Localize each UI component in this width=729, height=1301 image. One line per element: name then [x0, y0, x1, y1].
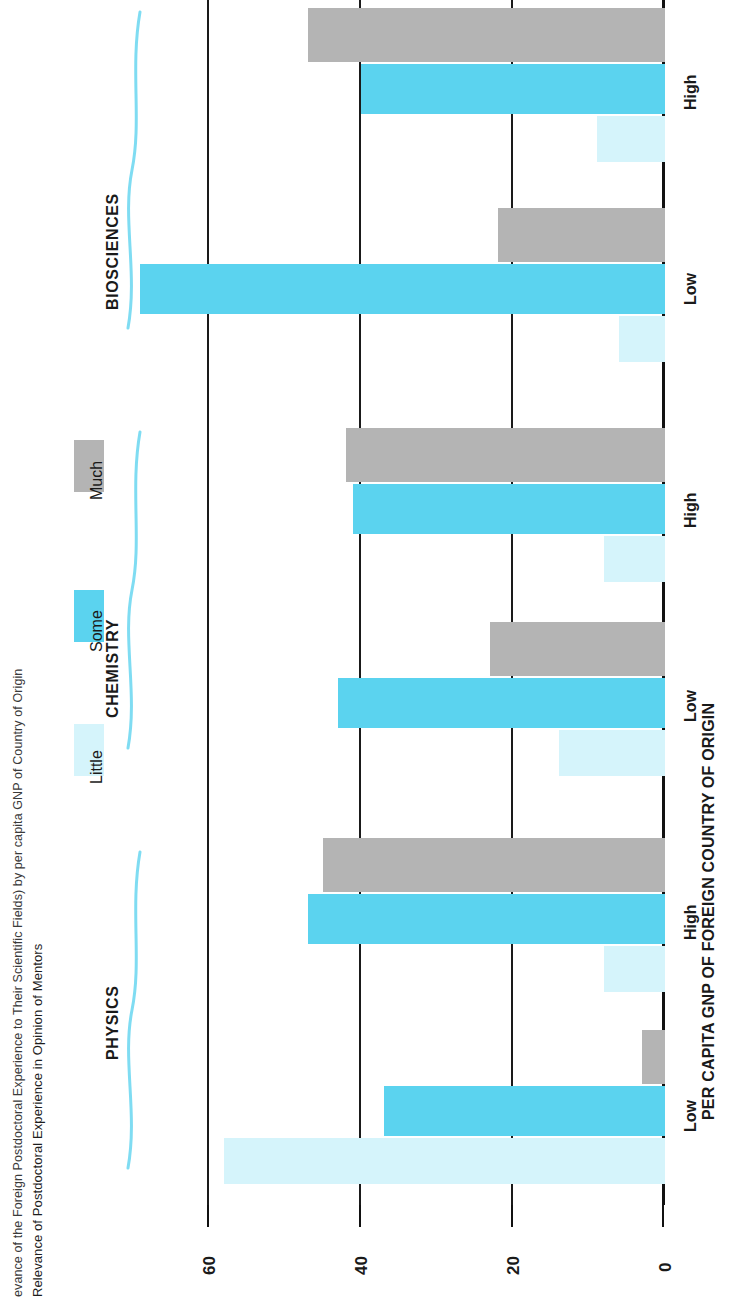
category-label-chemistry-low: Low: [682, 690, 700, 722]
bar-much[interactable]: [323, 838, 665, 892]
tick-label-20: 20: [504, 1256, 524, 1275]
tick-label-60: 60: [200, 1256, 220, 1275]
category-axis-title: PER CAPITA GNP OF FOREIGN COUNTRY OF ORI…: [700, 703, 718, 1120]
bar-group-biosciences-high: [150, 8, 665, 168]
bar-group-chemistry-high: [150, 428, 665, 588]
bar-much[interactable]: [308, 8, 665, 62]
group-bracket-chemistry: [120, 430, 146, 750]
bar-little[interactable]: [604, 536, 665, 582]
bar-little[interactable]: [559, 730, 665, 776]
bar-little[interactable]: [619, 316, 665, 362]
bar-much[interactable]: [642, 1030, 665, 1084]
group-label-chemistry: CHEMISTRY: [104, 619, 122, 718]
group-label-physics: PHYSICS: [104, 986, 122, 1060]
category-label-physics-low: Low: [682, 1100, 700, 1132]
bar-little[interactable]: [597, 116, 665, 162]
chart-title: Relevance of Postdoctoral Experience in …: [30, 944, 45, 1297]
bar-little[interactable]: [224, 1138, 665, 1184]
value-axis-line: [662, 0, 665, 1205]
bar-some[interactable]: [140, 264, 665, 314]
category-label-chemistry-high: High: [682, 492, 700, 528]
bar-some[interactable]: [338, 678, 665, 728]
category-label-biosciences-high: High: [682, 74, 700, 110]
bar-group-chemistry-low: [150, 622, 665, 782]
bar-group-biosciences-low: [150, 208, 665, 368]
tick-20: [511, 1205, 513, 1227]
bar-some[interactable]: [361, 64, 665, 114]
bar-much[interactable]: [498, 208, 665, 262]
tick-60: [207, 1205, 209, 1227]
gridline-20: [511, 0, 513, 1205]
bar-little[interactable]: [604, 946, 665, 992]
bar-group-physics-high: [150, 838, 665, 998]
bar-some[interactable]: [353, 484, 665, 534]
tick-label-40: 40: [352, 1256, 372, 1275]
tick-label-0: 0: [656, 1263, 676, 1272]
legend-label-much: Much: [88, 461, 106, 500]
tick-0: [662, 1205, 664, 1227]
group-bracket-physics: [120, 850, 146, 1170]
category-label-physics-high: High: [682, 904, 700, 940]
bar-much[interactable]: [346, 428, 665, 482]
group-label-biosciences: BIOSCIENCES: [104, 193, 122, 310]
bar-much[interactable]: [490, 622, 665, 676]
legend-label-little: Little: [88, 750, 106, 784]
bar-some[interactable]: [384, 1086, 665, 1136]
bar-some[interactable]: [308, 894, 665, 944]
chart-subtitle-line: evance of the Foreign Postdoctoral Exper…: [11, 669, 25, 1297]
tick-40: [359, 1205, 361, 1227]
bar-group-physics-low: [150, 1030, 665, 1190]
gridline-40: [359, 0, 361, 1205]
category-label-biosciences-low: Low: [682, 273, 700, 305]
plot-area: 60 40 20 0: [150, 0, 665, 1205]
gridline-60: [207, 0, 209, 1205]
